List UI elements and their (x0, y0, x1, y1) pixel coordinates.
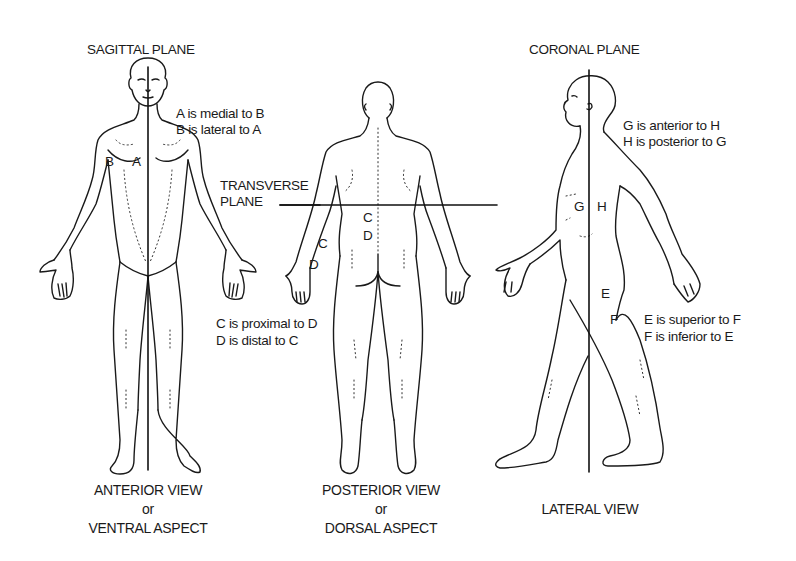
point-label-b: B (105, 155, 114, 169)
point-label-d-back: D (363, 229, 373, 243)
posterior-figure (286, 82, 470, 473)
point-label-g: G (574, 200, 585, 214)
caption-line: ANTERIOR VIEW (58, 481, 238, 500)
transverse-plane-label-line1: TRANSVERSE (220, 178, 309, 194)
sagittal-plane-label: SAGITTAL PLANE (87, 42, 195, 58)
anatomy-diagram: SAGITTAL PLANE CORONAL PLANE TRANSVERSE … (0, 0, 796, 561)
caption-line: or (296, 500, 466, 519)
caption-line: POSTERIOR VIEW (296, 481, 466, 500)
point-label-d-arm: D (309, 258, 319, 272)
caption-line: LATERAL VIEW (510, 500, 670, 519)
relation-inferior: F is inferior to E (644, 329, 733, 345)
point-label-f: F (610, 313, 618, 327)
relation-proximal: C is proximal to D (216, 316, 317, 332)
caption-line: or (58, 500, 238, 519)
caption-line: DORSAL ASPECT (296, 519, 466, 538)
point-label-h: H (597, 200, 607, 214)
relation-distal: D is distal to C (216, 333, 298, 349)
transverse-plane-label-line2: PLANE (220, 194, 263, 210)
point-label-a: A (132, 155, 141, 169)
relation-lateral: B is lateral to A (176, 122, 261, 138)
relation-posterior: H is posterior to G (623, 134, 726, 150)
anterior-view-caption: ANTERIOR VIEW or VENTRAL ASPECT (58, 481, 238, 538)
point-label-c-back: C (363, 211, 373, 225)
posterior-view-caption: POSTERIOR VIEW or DORSAL ASPECT (296, 481, 466, 538)
relation-medial: A is medial to B (176, 106, 264, 122)
point-label-c-arm: C (318, 237, 328, 251)
caption-line: VENTRAL ASPECT (58, 519, 238, 538)
lateral-view-caption: LATERAL VIEW (510, 500, 670, 519)
relation-anterior: G is anterior to H (623, 118, 720, 134)
point-label-e: E (601, 287, 610, 301)
relation-superior: E is superior to F (644, 312, 741, 328)
figures-drawing (0, 0, 796, 561)
coronal-plane-label: CORONAL PLANE (529, 42, 639, 58)
